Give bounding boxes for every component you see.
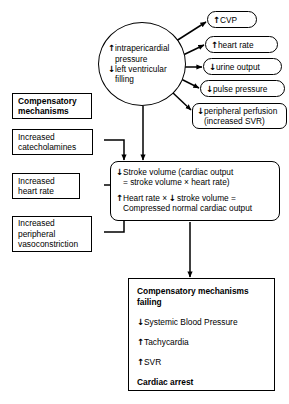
equation-text-4: Compressed normal cardiac output <box>123 203 252 213</box>
effect-urine-output: ↓urine output <box>203 58 282 75</box>
equation-text-1: Stroke volume (cardiac output <box>123 167 233 177</box>
down-arrow-icon: ↓ <box>167 193 177 203</box>
ellipse-line-1: ↑intrapericardial <box>108 43 169 53</box>
down-arrow-icon: ↓ <box>137 317 144 328</box>
compensatory-item-vasoconstriction: Increased peripheral vasoconstriction <box>12 216 92 252</box>
effect-heart-rate: ↑heart rate <box>205 36 278 53</box>
outcome-item-tachycardia-label: Tachycardia <box>144 337 189 347</box>
outcome-heading-line2: failing <box>137 297 266 308</box>
outcome-heading-line1: Compensatory mechanisms <box>137 286 266 297</box>
ellipse-line-3: ↓left ventricular <box>108 64 167 74</box>
compensatory-header-line1: Compensatory <box>18 96 77 106</box>
central-ellipse: ↑intrapericardial pressure ↓left ventric… <box>98 22 186 106</box>
ellipse-text-3: left ventricular <box>115 64 167 74</box>
vasoconstriction-line2: peripheral <box>18 229 55 239</box>
up-arrow-icon: ↑ <box>137 357 144 368</box>
ellipse-text-1: intrapericardial <box>115 43 169 53</box>
outcome-item-svr: ↑SVR <box>137 357 266 368</box>
down-arrow-icon: ↓ <box>108 64 115 74</box>
down-arrow-icon: ↓ <box>116 167 123 177</box>
heart-rate-box-line2: heart rate <box>18 186 54 196</box>
equation-line-2: = stroke volume × heart rate) <box>116 177 273 187</box>
effect-peripheral-perfusion-sublabel: (increased SVR) <box>204 116 265 126</box>
catecholamines-line2: catecholamines <box>18 142 76 152</box>
outcome-box: Compensatory mechanisms failing ↓Systemi… <box>128 278 275 391</box>
effect-pulse-pressure: ↓pulse pressure <box>200 80 285 97</box>
outcome-footer: Cardiac arrest <box>137 377 266 388</box>
ellipse-line-4: filling <box>108 74 134 84</box>
effect-cvp: ↑CVP <box>207 11 257 28</box>
compensatory-item-heart-rate: Increased heart rate <box>12 173 80 199</box>
compensatory-mechanisms-header: Compensatory mechanisms <box>12 93 92 119</box>
ellipse-text-2: pressure <box>115 54 147 64</box>
outcome-item-svr-label: SVR <box>144 357 161 367</box>
down-arrow-icon: ↓ <box>209 62 216 72</box>
up-arrow-icon: ↑ <box>116 193 123 203</box>
up-arrow-icon: ↑ <box>108 43 115 53</box>
up-arrow-icon: ↑ <box>137 337 144 348</box>
catecholamines-line1: Increased <box>18 132 55 142</box>
equation-text-3b: stroke volume = <box>177 193 236 203</box>
equation-text-3a: Heart rate × <box>123 193 167 203</box>
outcome-heading: Compensatory mechanisms failing <box>137 286 266 308</box>
down-arrow-icon: ↓ <box>206 84 213 94</box>
effect-peripheral-perfusion-line2: (increased SVR) <box>197 116 265 126</box>
compensatory-header-line2: mechanisms <box>18 106 69 116</box>
up-arrow-icon: ↑ <box>213 15 220 25</box>
outcome-item-blood-pressure-label: Systemic Blood Pressure <box>144 317 238 327</box>
diagram-canvas: ↑intrapericardial pressure ↓left ventric… <box>0 0 289 404</box>
ellipse-text-4: filling <box>115 74 134 84</box>
effect-heart-rate-label: heart rate <box>218 40 254 50</box>
effect-peripheral-perfusion-line1: ↓peripheral perfusion <box>197 106 277 116</box>
down-arrow-icon: ↓ <box>197 106 204 116</box>
up-arrow-icon: ↑ <box>211 40 218 50</box>
equation-text-2: = stroke volume × heart rate) <box>123 177 230 187</box>
heart-rate-box-line1: Increased <box>18 176 55 186</box>
equation-group-1: ↓Stroke volume (cardiac output = stroke … <box>116 167 273 188</box>
stroke-volume-equation-box: ↓Stroke volume (cardiac output = stroke … <box>110 161 280 221</box>
effect-cvp-label: CVP <box>220 15 237 25</box>
equation-line-3: ↑Heart rate ×↓stroke volume = <box>116 193 273 203</box>
effect-pulse-pressure-label: pulse pressure <box>213 84 267 94</box>
vasoconstriction-line1: Increased <box>18 218 55 228</box>
outcome-item-blood-pressure: ↓Systemic Blood Pressure <box>137 317 266 328</box>
outcome-item-tachycardia: ↑Tachycardia <box>137 337 266 348</box>
effect-peripheral-perfusion: ↓peripheral perfusion (increased SVR) <box>192 103 287 129</box>
equation-line-4: Compressed normal cardiac output <box>116 203 273 213</box>
ellipse-line-2: pressure <box>108 54 147 64</box>
vasoconstriction-line3: vasoconstriction <box>18 239 78 249</box>
equation-line-1: ↓Stroke volume (cardiac output <box>116 167 273 177</box>
effect-urine-output-label: urine output <box>216 62 260 72</box>
effect-peripheral-perfusion-label: peripheral perfusion <box>204 106 277 116</box>
equation-group-2: ↑Heart rate ×↓stroke volume = Compressed… <box>116 193 273 214</box>
compensatory-item-catecholamines: Increased catecholamines <box>12 129 93 155</box>
